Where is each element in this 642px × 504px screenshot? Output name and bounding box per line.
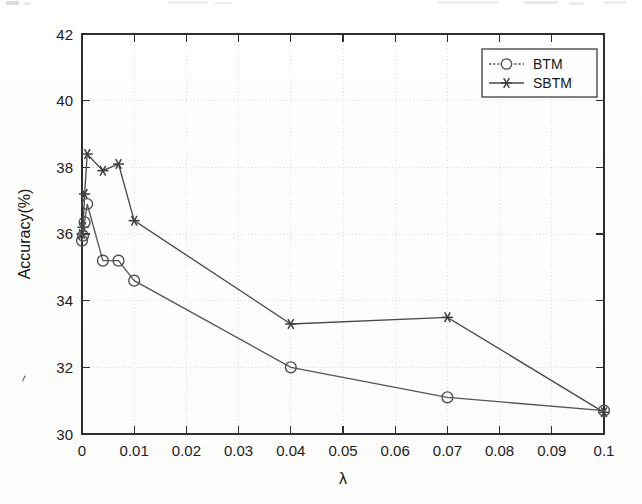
y-axis-title: Accuracy(%) [16,189,33,280]
x-tick-label: 0.05 [328,442,357,459]
y-tick-label: 38 [56,159,73,176]
figure-canvas: 30 32 34 36 38 40 42 0 0.01 0.02 0.03 0.… [0,0,642,504]
x-tick-label: 0.08 [485,442,514,459]
x-tick-label: 0.04 [276,442,305,459]
x-tick-label: 0.03 [224,442,253,459]
chart-legend[interactable]: BTM SBTM [482,49,597,97]
y-axis-tick-labels: 30 32 34 36 38 40 42 [56,26,73,443]
y-tick-label: 30 [56,426,73,443]
legend-label-btm: BTM [533,56,563,72]
y-tick-label: 32 [56,359,73,376]
x-tick-label: 0 [78,442,86,459]
y-tick-label: 36 [56,225,73,242]
x-tick-label: 0.01 [120,442,149,459]
y-tick-label: 42 [56,26,73,43]
legend-label-sbtm: SBTM [533,75,572,91]
y-tick-label: 40 [56,92,73,109]
y-tick-label: 34 [56,292,73,309]
x-axis-title: λ [339,470,347,487]
x-tick-label: 0.02 [172,442,201,459]
x-axis-tick-labels: 0 0.01 0.02 0.03 0.04 0.05 0.06 0.07 0.0… [78,442,615,459]
data-point-marker [442,312,453,322]
x-tick-label: 0.06 [381,442,410,459]
x-tick-label: 0.09 [537,442,566,459]
circle-marker-icon [501,59,511,69]
x-tick-label: 0.1 [594,442,615,459]
x-tick-label: 0.07 [433,442,462,459]
accuracy-vs-lambda-line-chart: 30 32 34 36 38 40 42 0 0.01 0.02 0.03 0.… [0,0,642,504]
scan-speck-artifact [22,375,26,381]
